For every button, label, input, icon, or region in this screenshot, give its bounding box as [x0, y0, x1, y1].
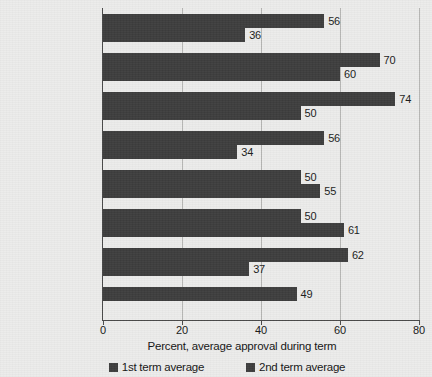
- bar-first-term: [103, 170, 301, 184]
- bar-second-term: [103, 106, 301, 120]
- bar-first-term: [103, 209, 301, 223]
- legend-label-second-term: 2nd term average: [259, 361, 345, 373]
- bar-value-label: 50: [301, 106, 317, 120]
- bar-row: Richard Nixon5634: [103, 131, 419, 159]
- plot-area: Harry Truman5636Dwight Eisenhower7060Lyn…: [103, 8, 419, 320]
- x-tick-label: 80: [413, 324, 425, 337]
- bar-second-term: [103, 262, 249, 276]
- bar-second-term: [103, 28, 245, 42]
- legend-swatch-first-term: [109, 363, 118, 372]
- bar-value-label: 50: [301, 209, 317, 223]
- x-tick-label: 0: [100, 324, 106, 337]
- bar-value-label: 62: [348, 248, 364, 262]
- y-axis-line: [102, 8, 103, 320]
- x-tick-label: 60: [334, 324, 346, 337]
- bar-value-label: 50: [301, 170, 317, 184]
- bar-row: Barack Obama49: [103, 287, 419, 315]
- bar-first-term: [103, 53, 380, 67]
- bar-first-term: [103, 287, 297, 301]
- bar-row: George W. Bush6237: [103, 248, 419, 276]
- bar-value-label: 37: [249, 262, 265, 276]
- legend-label-first-term: 1st term average: [122, 361, 204, 373]
- bar-value-label: 34: [237, 145, 253, 159]
- chart-legend: 1st term average 2nd term average: [0, 361, 432, 373]
- bar-value-label: 61: [344, 223, 360, 237]
- bar-value-label: 56: [324, 131, 340, 145]
- bar-second-term: [103, 67, 340, 81]
- bar-first-term: [103, 248, 348, 262]
- bar-value-label: 74: [395, 92, 411, 106]
- bar-row: Lyndon Johnson7450: [103, 92, 419, 120]
- bar-second-term: [103, 184, 320, 198]
- bar-second-term: [103, 223, 344, 237]
- legend-item-second-term: 2nd term average: [246, 361, 345, 373]
- bar-row: Harry Truman5636: [103, 14, 419, 42]
- bar-value-label: 56: [324, 14, 340, 28]
- bar-first-term: [103, 131, 324, 145]
- bar-row: Bill Clinton5061: [103, 209, 419, 237]
- bar-value-label: 36: [245, 28, 261, 42]
- x-axis-title: Percent, average approval during term: [0, 340, 432, 352]
- gridline-80: [419, 8, 420, 320]
- bar-first-term: [103, 92, 395, 106]
- approval-bar-chart: Harry Truman5636Dwight Eisenhower7060Lyn…: [0, 0, 432, 377]
- legend-swatch-second-term: [246, 363, 255, 372]
- legend-item-first-term: 1st term average: [109, 361, 204, 373]
- bar-value-label: 49: [297, 287, 313, 301]
- bar-second-term: [103, 145, 237, 159]
- bar-first-term: [103, 14, 324, 28]
- x-tick-label: 20: [176, 324, 188, 337]
- bar-row: Dwight Eisenhower7060: [103, 53, 419, 81]
- bar-value-label: 60: [340, 67, 356, 81]
- bar-value-label: 55: [320, 184, 336, 198]
- bar-row: Ronald Reagan5055: [103, 170, 419, 198]
- bar-value-label: 70: [380, 53, 396, 67]
- x-tick-label: 40: [255, 324, 267, 337]
